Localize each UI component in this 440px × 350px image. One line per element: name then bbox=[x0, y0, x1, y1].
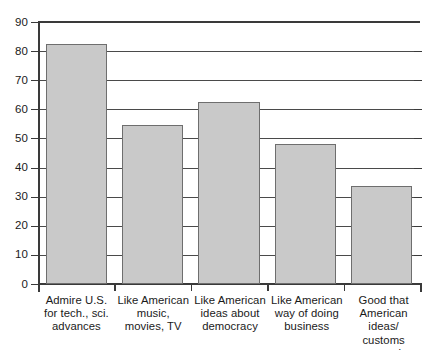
y-axis-label-50: 50 bbox=[2, 133, 28, 145]
category-label: Like American ideas about democracy bbox=[192, 294, 269, 346]
x-tick-5 bbox=[420, 285, 422, 292]
bar-chart: 9080706050403020100 Admire U.S. for tech… bbox=[0, 0, 440, 350]
y-axis-label-20: 20 bbox=[2, 220, 28, 232]
bar bbox=[46, 44, 107, 284]
category-labels: Admire U.S. for tech., sci. advancesLike… bbox=[38, 294, 422, 346]
y-axis-label-0: 0 bbox=[2, 279, 28, 291]
category-label: Like American music, movies, TV bbox=[115, 294, 192, 346]
y-axis-label-90: 90 bbox=[2, 17, 28, 29]
y-axis-label-80: 80 bbox=[2, 46, 28, 58]
category-label: Like American way of doing business bbox=[268, 294, 345, 346]
x-tick-2 bbox=[191, 285, 193, 291]
y-axis-label-70: 70 bbox=[2, 75, 28, 87]
x-tick-1 bbox=[114, 285, 116, 291]
x-tick-0 bbox=[38, 285, 40, 292]
bars-layer bbox=[38, 22, 420, 284]
bar bbox=[275, 144, 336, 284]
bar bbox=[198, 102, 259, 284]
y-axis-label-10: 10 bbox=[2, 249, 28, 261]
y-axis-label-30: 30 bbox=[2, 191, 28, 203]
bar bbox=[122, 125, 183, 284]
bar bbox=[351, 186, 412, 284]
x-tick-3 bbox=[267, 285, 269, 291]
y-axis-label-60: 60 bbox=[2, 104, 28, 116]
category-label: Good that American ideas/ customs spread bbox=[345, 294, 422, 346]
x-tick-4 bbox=[344, 285, 346, 291]
y-axis-label-40: 40 bbox=[2, 162, 28, 174]
category-label: Admire U.S. for tech., sci. advances bbox=[38, 294, 115, 346]
